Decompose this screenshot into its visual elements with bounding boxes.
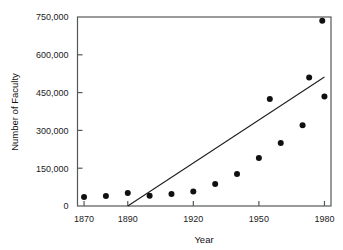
data-point [168, 191, 174, 197]
data-point [234, 171, 240, 177]
y-axis-tick-label: 450,000 [36, 88, 69, 98]
data-point [256, 155, 262, 161]
data-point [321, 93, 327, 99]
y-axis-tick-label: 300,000 [36, 126, 69, 136]
data-point [147, 193, 153, 199]
y-axis-tick-label: 600,000 [36, 50, 69, 60]
data-point [81, 194, 87, 200]
x-axis-tick-label: 1980 [314, 214, 334, 224]
data-point [103, 193, 109, 199]
data-point [267, 96, 273, 102]
data-point-group [81, 18, 327, 200]
trend-line [128, 77, 325, 206]
data-point [319, 18, 325, 24]
data-point [278, 140, 284, 146]
y-axis-tick-marks [78, 55, 83, 168]
y-axis-tick-label: 150,000 [36, 164, 69, 174]
x-axis-title: Year [194, 234, 213, 245]
faculty-vs-year-scatter-chart: 0150,000300,000450,000600,000750,000 187… [0, 0, 343, 250]
data-point [300, 122, 306, 128]
data-point [212, 181, 218, 187]
x-axis-tick-label: 1870 [74, 214, 94, 224]
x-axis-tick-label: 1920 [183, 214, 203, 224]
plot-area-frame [78, 17, 332, 206]
x-axis-tick-label: 1890 [118, 214, 138, 224]
data-point [125, 190, 131, 196]
data-point [306, 74, 312, 80]
data-point [190, 188, 196, 194]
chart-figure: 0150,000300,000450,000600,000750,000 187… [0, 0, 343, 250]
y-axis-tick-label-group: 0150,000300,000450,000600,000750,000 [36, 12, 69, 211]
x-axis-tick-marks [84, 201, 324, 206]
x-axis-tick-label: 1950 [249, 214, 269, 224]
y-axis-tick-label: 0 [63, 201, 68, 211]
x-axis-tick-label-group: 18701890192019501980 [74, 214, 334, 224]
y-axis-title: Number of Faculty [9, 73, 20, 151]
y-axis-tick-label: 750,000 [36, 12, 69, 22]
